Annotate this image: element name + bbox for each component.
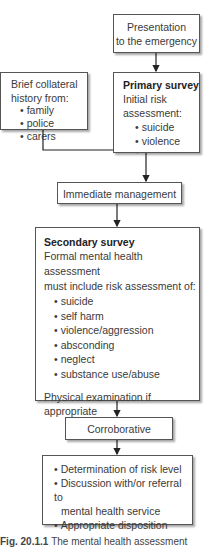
outcome-node: Determination of risk level Discussion w… — [42, 455, 193, 525]
collateral-item: police — [20, 117, 87, 130]
secondary-item: self harm — [54, 309, 199, 324]
primary-line-1: Initial risk — [123, 92, 199, 106]
secondary-footer: Physical examination if appropriate — [44, 390, 199, 418]
corroborative-node: Corroborative — [65, 417, 173, 440]
secondary-item: substance use/abuse — [54, 367, 199, 382]
outcome-item: Appropriate disposition — [54, 518, 192, 532]
outcome-item: Determination of risk level — [54, 462, 192, 476]
secondary-item: absconding — [54, 338, 199, 353]
secondary-line-1: Formal mental health assessment — [44, 249, 199, 279]
immediate-management-node: Immediate management — [57, 182, 182, 204]
collateral-item: family — [20, 104, 87, 117]
caption-fig-number: Fig. 20.1.1 — [0, 536, 48, 547]
primary-survey-node: Primary survey Initial risk assessment: … — [113, 72, 200, 153]
presentation-node: Presentation to the emergency — [113, 14, 200, 53]
collateral-history-node: Brief collateral history from: family po… — [0, 72, 88, 130]
secondary-item: suicide — [54, 294, 199, 309]
primary-survey-title: Primary survey — [123, 78, 199, 92]
collateral-title: Brief collateral — [11, 77, 87, 91]
secondary-line-2: must include risk assessment of: — [44, 279, 199, 294]
secondary-item: violence/aggression — [54, 323, 199, 338]
secondary-item: neglect — [54, 352, 199, 367]
primary-item: suicide — [135, 120, 199, 134]
secondary-survey-node: Secondary survey Formal mental health as… — [35, 227, 200, 401]
immediate-management-label: Immediate management — [63, 188, 176, 200]
corroborative-label: Corroborative — [87, 423, 151, 435]
caption-text: The mental health assessment — [51, 536, 187, 547]
primary-line-2: assessment: — [123, 106, 199, 120]
figure-caption: Fig. 20.1.1 The mental health assessment — [0, 536, 187, 547]
collateral-subtitle: history from: — [11, 91, 87, 105]
collateral-item: carers — [20, 130, 87, 143]
presentation-line-2: to the emergency — [114, 34, 199, 48]
presentation-line-1: Presentation — [114, 20, 199, 34]
primary-item: violence — [135, 134, 199, 148]
secondary-survey-title: Secondary survey — [44, 235, 199, 249]
outcome-item: Discussion with/or referral to — [54, 476, 192, 504]
outcome-item-continued: mental health service — [54, 504, 192, 518]
